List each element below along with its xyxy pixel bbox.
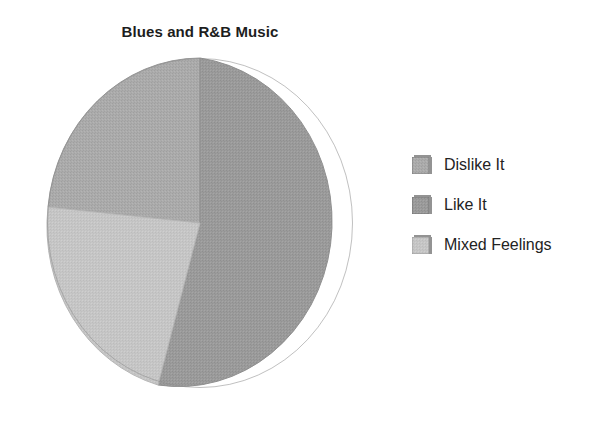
legend-item-like-it[interactable]: Like It [410,185,600,225]
legend-swatch-like-it-icon [412,195,433,215]
legend-swatch-dislike-it-icon [412,155,433,175]
swatch-face-dislike-it [412,157,429,174]
legend-swatch-mixed-feelings-icon [412,235,433,255]
pie-slice-dislike-it[interactable] [48,58,200,223]
legend-label-dislike-it: Dislike It [444,157,504,173]
legend-label-like-it: Like It [444,197,487,213]
swatch-face-like-it [412,197,429,214]
pie-chart-plot-area [46,55,356,393]
swatch-face-mixed-feelings [412,237,429,254]
legend-label-mixed-feelings: Mixed Feelings [444,237,552,253]
pie-svg [46,55,356,393]
pie-chart-figure: Blues and R&B Music [0,0,604,423]
chart-title: Blues and R&B Music [0,23,400,40]
legend-item-dislike-it[interactable]: Dislike It [410,145,600,185]
legend-item-mixed-feelings[interactable]: Mixed Feelings [410,225,600,265]
chart-legend: Dislike It Like It Mix [410,145,600,265]
